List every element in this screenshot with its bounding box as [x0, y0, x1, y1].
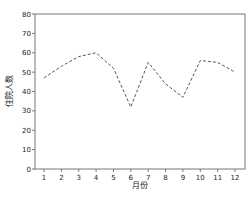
x-tick-label: 9: [181, 174, 185, 182]
line-chart: 01020304050607080 123456789101112 月份 住院人…: [0, 0, 251, 198]
x-tick-label: 3: [76, 174, 80, 182]
x-tick-label: 2: [59, 174, 63, 182]
y-axis-label: 住院人数: [4, 75, 14, 107]
y-tick-label: 40: [22, 88, 31, 96]
x-axis-label: 月份: [132, 180, 148, 190]
y-tick-label: 80: [22, 11, 31, 19]
x-tick-label: 8: [163, 174, 167, 182]
x-tick-label: 1: [42, 174, 46, 182]
y-tick-label: 30: [22, 107, 31, 115]
plot-area: [35, 14, 245, 169]
y-tick-label: 10: [22, 146, 31, 154]
y-tick-label: 50: [22, 69, 31, 77]
y-tick-label: 0: [27, 166, 31, 174]
y-tick-label: 60: [22, 49, 31, 57]
x-tick-label: 5: [111, 174, 115, 182]
x-tick-label: 11: [213, 174, 222, 182]
y-tick-label: 20: [22, 127, 31, 135]
y-tick-label: 70: [22, 30, 31, 38]
x-tick-label: 4: [94, 174, 99, 182]
y-axis-ticks: 01020304050607080: [22, 11, 35, 174]
x-tick-label: 10: [196, 174, 205, 182]
x-tick-label: 12: [231, 174, 240, 182]
